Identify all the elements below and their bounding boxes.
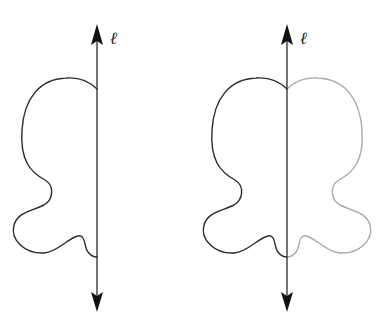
axis-label-l-right: ℓ (300, 28, 307, 48)
right-figure-original-half (203, 78, 287, 257)
right-figure-reflected-half (287, 78, 371, 257)
axis-label-l-left: ℓ (110, 28, 117, 48)
left-half-curve (13, 78, 97, 257)
right-figure: ℓ (203, 24, 370, 312)
reflection-diagram: ℓ ℓ (0, 0, 384, 327)
left-figure: ℓ (13, 24, 117, 312)
